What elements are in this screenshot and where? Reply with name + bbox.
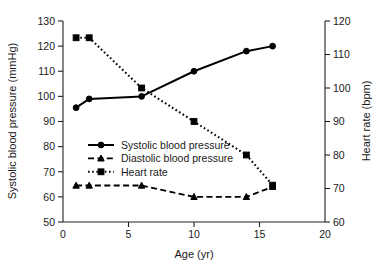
y-right-tick-label: 80 (333, 149, 345, 161)
y-axis-left-ticks: 5060708090100110120130 (37, 15, 63, 228)
y-left-tick-label: 60 (43, 191, 55, 203)
chart-figure: 5060708090100110120130 60708090100110120… (0, 0, 384, 277)
y-axis-right-title: Heart rate (bpm) (360, 81, 372, 162)
legend-item-label: Systolic blood pressure (121, 139, 230, 151)
y-left-tick-label: 90 (43, 115, 55, 127)
legend-marker-square (98, 169, 104, 175)
chart-legend: Systolic blood pressureDiastolic blood p… (88, 139, 233, 178)
x-tick-label: 0 (60, 228, 66, 240)
y-left-tick-label: 70 (43, 166, 55, 178)
legend-item-label: Diastolic blood pressure (121, 152, 233, 164)
series-1 (73, 43, 275, 110)
data-point-marker (270, 182, 276, 188)
x-axis-ticks: 05101520 (60, 222, 331, 240)
y-axis-left-title: Systolic blood pressure (mmHg) (6, 43, 18, 200)
y-right-tick-label: 120 (333, 15, 351, 27)
x-tick-label: 15 (254, 228, 266, 240)
x-tick-label: 10 (188, 228, 200, 240)
data-point-marker (73, 105, 79, 111)
legend-item-label: Heart rate (121, 166, 168, 178)
data-point-marker (86, 96, 92, 102)
y-right-tick-label: 110 (333, 48, 350, 60)
data-point-marker (86, 35, 92, 41)
x-tick-label: 5 (126, 228, 132, 240)
data-point-marker (244, 152, 250, 158)
legend-item: Diastolic blood pressure (88, 152, 233, 164)
y-right-tick-label: 90 (333, 115, 345, 127)
y-left-tick-label: 110 (38, 65, 55, 77)
chart-canvas: 5060708090100110120130 60708090100110120… (0, 0, 384, 277)
series-path (76, 46, 273, 108)
legend-item: Heart rate (88, 166, 168, 178)
series-2 (73, 182, 276, 199)
y-left-tick-label: 80 (43, 140, 55, 152)
legend-item: Systolic blood pressure (88, 139, 230, 151)
series-3 (73, 35, 275, 188)
data-point-marker (191, 68, 197, 74)
legend-marker-circle (98, 142, 104, 148)
data-point-marker (73, 35, 79, 41)
y-right-tick-label: 60 (333, 216, 345, 228)
data-point-marker (139, 93, 145, 99)
data-point-marker (191, 119, 197, 125)
y-right-tick-label: 70 (333, 182, 345, 194)
x-tick-label: 20 (319, 228, 331, 240)
y-left-tick-label: 100 (37, 90, 55, 102)
y-left-tick-label: 130 (37, 15, 55, 27)
x-axis-title: Age (yr) (174, 248, 213, 260)
y-right-tick-label: 100 (333, 82, 351, 94)
y-left-tick-label: 50 (43, 216, 55, 228)
data-point-marker (139, 85, 145, 91)
data-point-marker (244, 48, 250, 54)
y-axis-right-ticks: 60708090100110120 (325, 15, 351, 228)
series-path (76, 186, 273, 197)
data-point-marker (270, 43, 276, 49)
y-left-tick-label: 120 (37, 40, 55, 52)
